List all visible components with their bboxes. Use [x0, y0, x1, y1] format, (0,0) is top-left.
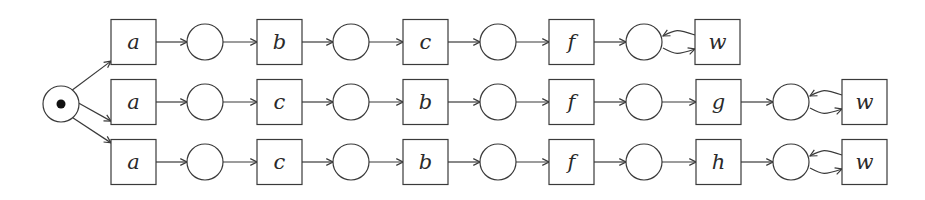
transition-a[interactable]: a	[111, 80, 156, 125]
transition-label: a	[127, 90, 140, 114]
transition-a[interactable]: a	[111, 20, 156, 65]
transition-label: b	[273, 30, 286, 54]
arc-start-row1	[72, 61, 111, 90]
place[interactable]	[626, 144, 662, 180]
transition-label: w	[856, 90, 874, 114]
place[interactable]	[480, 24, 516, 60]
transition-label: a	[127, 30, 140, 54]
arc-place-to-w	[810, 108, 842, 113]
petri-net-canvas: abcfwacbfgwacbfhw	[0, 0, 925, 200]
transition-label: c	[274, 150, 286, 174]
transition-a[interactable]: a	[111, 140, 156, 185]
place[interactable]	[333, 24, 369, 60]
transition-label: c	[274, 90, 286, 114]
place[interactable]	[480, 84, 516, 120]
transition-label: h	[712, 150, 726, 174]
transition-label: b	[419, 90, 432, 114]
arc-start-row3	[73, 118, 111, 143]
place[interactable]	[187, 24, 223, 60]
transition-b[interactable]: b	[257, 20, 302, 65]
transition-h[interactable]: h	[696, 140, 741, 185]
place[interactable]	[773, 144, 809, 180]
arc-place-to-w	[663, 48, 695, 53]
place[interactable]	[333, 144, 369, 180]
transition-g[interactable]: g	[696, 80, 741, 125]
arc-w-to-place	[663, 31, 695, 36]
arc-w-to-place	[810, 91, 842, 96]
transition-w[interactable]: w	[695, 20, 740, 65]
transition-label: a	[127, 150, 140, 174]
arc-start-row2	[79, 103, 111, 121]
transition-b[interactable]: b	[403, 140, 448, 185]
transition-label: g	[712, 90, 725, 114]
place[interactable]	[187, 84, 223, 120]
arc-w-to-place	[810, 151, 842, 156]
transition-label: w	[856, 150, 874, 174]
transition-c[interactable]: c	[257, 140, 302, 185]
transition-w[interactable]: w	[842, 80, 887, 125]
transition-f[interactable]: f	[549, 20, 594, 65]
place[interactable]	[626, 24, 662, 60]
place[interactable]	[626, 84, 662, 120]
transition-c[interactable]: c	[257, 80, 302, 125]
transition-label: b	[419, 150, 432, 174]
place[interactable]	[333, 84, 369, 120]
arc-place-to-w	[810, 168, 842, 173]
place[interactable]	[187, 144, 223, 180]
transition-w[interactable]: w	[842, 140, 887, 185]
token-icon	[57, 100, 66, 109]
transition-label: c	[420, 30, 432, 54]
place[interactable]	[480, 144, 516, 180]
transition-b[interactable]: b	[403, 80, 448, 125]
transition-label: w	[709, 30, 727, 54]
transition-f[interactable]: f	[549, 140, 594, 185]
transition-f[interactable]: f	[549, 80, 594, 125]
transition-c[interactable]: c	[403, 20, 448, 65]
place[interactable]	[773, 84, 809, 120]
petri-net-diagram: abcfwacbfgwacbfhw	[0, 0, 925, 200]
